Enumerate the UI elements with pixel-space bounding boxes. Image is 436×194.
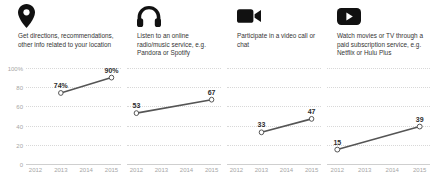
data-point-label: 90% [104, 67, 118, 74]
chart-caption: Watch movies or TV through a paid subscr… [325, 32, 436, 68]
data-point-label: 47 [308, 108, 316, 115]
data-point-marker [259, 130, 264, 135]
video-camera-icon [225, 0, 325, 32]
gridline [227, 164, 321, 166]
chart-area: 1539 2012201320142015 [325, 68, 436, 186]
series-line [127, 68, 221, 164]
series-line [327, 68, 430, 164]
data-point-marker [59, 91, 64, 96]
data-point-marker [417, 124, 422, 129]
gridline: 0 [26, 164, 121, 166]
y-axis-tick-label: 100% [8, 66, 23, 72]
x-axis-tick-label: 2013 [54, 167, 67, 173]
plot-area: 1539 [327, 68, 430, 164]
x-axis-tick-label: 2014 [180, 167, 193, 173]
chart-area: 3347 2012201320142015 [225, 68, 325, 186]
data-point-marker [134, 111, 139, 116]
x-axis: 2012201320142015 [227, 167, 321, 181]
chart-caption: Get directions, recommendations, other i… [0, 32, 125, 68]
x-axis-tick-label: 2014 [386, 167, 399, 173]
plot-area: 5367 [127, 68, 221, 164]
y-axis-tick-label: 20 [16, 143, 23, 149]
x-axis-tick-label: 2013 [255, 167, 268, 173]
location-pin-icon [0, 0, 125, 32]
gridline [127, 164, 221, 166]
gridline [327, 164, 430, 166]
x-axis-tick-label: 2012 [130, 167, 143, 173]
chart-panel-video-call: Participate in a video call or chat 3347… [225, 0, 325, 194]
x-axis-tick-label: 2013 [358, 167, 371, 173]
y-axis-tick-label: 0 [20, 162, 23, 168]
x-axis-tick-label: 2015 [105, 167, 118, 173]
data-point-label: 15 [333, 139, 341, 146]
x-axis: 2012201320142015 [26, 167, 121, 181]
x-axis-tick-label: 2012 [29, 167, 42, 173]
series-line [227, 68, 321, 164]
data-point-label: 74% [54, 82, 68, 89]
chart-panel-online-radio: Listen to an online radio/music service,… [125, 0, 225, 194]
chart-area: 5367 2012201320142015 [125, 68, 225, 186]
x-axis-tick-label: 2014 [79, 167, 92, 173]
small-multiples-chart-grid: Get directions, recommendations, other i… [0, 0, 436, 194]
x-axis-tick-label: 2015 [413, 167, 426, 173]
plot-area: 020406080100%74%90% [26, 68, 121, 164]
chart-caption: Participate in a video call or chat [225, 32, 325, 68]
chart-panel-streaming-video: Watch movies or TV through a paid subscr… [325, 0, 436, 194]
x-axis-tick-label: 2012 [230, 167, 243, 173]
data-point-marker [209, 97, 214, 102]
data-point-marker [309, 116, 314, 121]
x-axis-tick-label: 2012 [331, 167, 344, 173]
chart-area: 020406080100%74%90% 2012201320142015 [0, 68, 125, 186]
x-axis-tick-label: 2014 [280, 167, 293, 173]
x-axis: 2012201320142015 [327, 167, 430, 181]
data-point-label: 39 [416, 116, 424, 123]
data-point-marker [335, 147, 340, 152]
y-axis-tick-label: 80 [16, 85, 23, 91]
play-button-icon [325, 0, 436, 32]
data-point-label: 33 [258, 121, 266, 128]
x-axis-tick-label: 2015 [205, 167, 218, 173]
data-point-label: 53 [132, 102, 140, 109]
series-line [26, 68, 121, 164]
y-axis-tick-label: 60 [16, 104, 23, 110]
data-point-marker [109, 75, 114, 80]
x-axis: 2012201320142015 [127, 167, 221, 181]
plot-area: 3347 [227, 68, 321, 164]
data-point-label: 67 [208, 89, 216, 96]
y-axis-tick-label: 40 [16, 124, 23, 130]
chart-caption: Listen to an online radio/music service,… [125, 32, 225, 68]
x-axis-tick-label: 2013 [155, 167, 168, 173]
chart-panel-location: Get directions, recommendations, other i… [0, 0, 125, 194]
x-axis-tick-label: 2015 [305, 167, 318, 173]
headphones-icon [125, 0, 225, 32]
